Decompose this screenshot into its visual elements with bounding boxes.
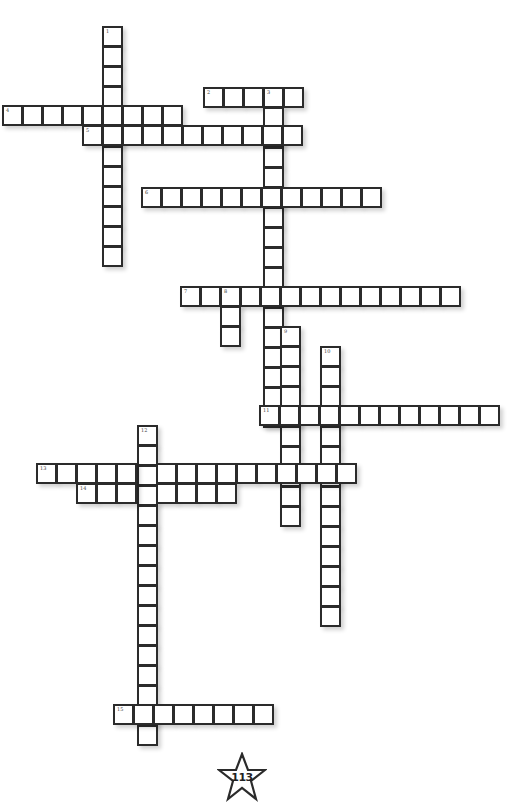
- crossword-cell[interactable]: 7: [180, 286, 201, 307]
- crossword-cell[interactable]: [220, 306, 241, 327]
- crossword-cell[interactable]: [176, 483, 197, 504]
- crossword-cell[interactable]: [182, 125, 203, 146]
- crossword-cell[interactable]: [400, 286, 421, 307]
- crossword-cell[interactable]: [137, 565, 158, 586]
- crossword-cell[interactable]: [340, 286, 361, 307]
- crossword-cell[interactable]: [279, 405, 300, 426]
- crossword-cell[interactable]: [320, 506, 341, 527]
- crossword-cell[interactable]: [320, 366, 341, 387]
- crossword-cell[interactable]: [280, 386, 301, 407]
- crossword-cell[interactable]: [223, 87, 244, 108]
- crossword-cell[interactable]: [263, 247, 284, 268]
- crossword-cell[interactable]: [161, 187, 182, 208]
- crossword-cell[interactable]: [316, 463, 337, 484]
- crossword-cell[interactable]: [280, 426, 301, 447]
- crossword-cell[interactable]: [221, 187, 242, 208]
- crossword-cell[interactable]: [263, 147, 284, 168]
- crossword-cell[interactable]: [320, 426, 341, 447]
- crossword-cell[interactable]: [399, 405, 420, 426]
- crossword-cell[interactable]: [137, 725, 158, 746]
- crossword-cell[interactable]: [263, 227, 284, 248]
- crossword-cell[interactable]: [137, 465, 158, 486]
- crossword-cell[interactable]: [336, 463, 357, 484]
- crossword-cell[interactable]: [439, 405, 460, 426]
- crossword-cell[interactable]: [220, 326, 241, 347]
- crossword-cell[interactable]: [137, 645, 158, 666]
- crossword-cell[interactable]: 5: [82, 125, 103, 146]
- crossword-cell[interactable]: [102, 105, 123, 126]
- crossword-cell[interactable]: [116, 463, 137, 484]
- crossword-cell[interactable]: [243, 87, 264, 108]
- crossword-cell[interactable]: [137, 625, 158, 646]
- crossword-cell[interactable]: 13: [36, 463, 57, 484]
- crossword-cell[interactable]: [339, 405, 360, 426]
- crossword-cell[interactable]: [142, 105, 163, 126]
- crossword-cell[interactable]: [193, 704, 214, 725]
- crossword-cell[interactable]: [102, 246, 123, 267]
- crossword-cell[interactable]: [300, 286, 321, 307]
- crossword-cell[interactable]: [137, 485, 158, 506]
- crossword-cell[interactable]: [280, 346, 301, 367]
- crossword-cell[interactable]: [440, 286, 461, 307]
- crossword-cell[interactable]: [419, 405, 440, 426]
- crossword-cell[interactable]: 6: [141, 187, 162, 208]
- crossword-cell[interactable]: [156, 483, 177, 504]
- crossword-cell[interactable]: [102, 86, 123, 107]
- crossword-cell[interactable]: 2: [203, 87, 224, 108]
- crossword-cell[interactable]: [241, 187, 262, 208]
- crossword-cell[interactable]: [216, 463, 237, 484]
- crossword-cell[interactable]: [96, 483, 117, 504]
- crossword-cell[interactable]: [320, 566, 341, 587]
- crossword-cell[interactable]: [242, 125, 263, 146]
- crossword-cell[interactable]: [263, 167, 284, 188]
- crossword-cell[interactable]: [137, 585, 158, 606]
- crossword-cell[interactable]: [280, 366, 301, 387]
- crossword-cell[interactable]: [137, 665, 158, 686]
- crossword-cell[interactable]: [261, 187, 282, 208]
- crossword-cell[interactable]: 3: [263, 87, 284, 108]
- crossword-cell[interactable]: [276, 463, 297, 484]
- crossword-cell[interactable]: [102, 66, 123, 87]
- crossword-cell[interactable]: [102, 226, 123, 247]
- crossword-cell[interactable]: [102, 186, 123, 207]
- crossword-cell[interactable]: [102, 146, 123, 167]
- crossword-cell[interactable]: [320, 486, 341, 507]
- crossword-cell[interactable]: 14: [76, 483, 97, 504]
- crossword-cell[interactable]: [283, 87, 304, 108]
- crossword-cell[interactable]: [263, 267, 284, 288]
- crossword-cell[interactable]: [56, 463, 77, 484]
- crossword-cell[interactable]: 12: [137, 425, 158, 446]
- crossword-cell[interactable]: [263, 307, 284, 328]
- crossword-cell[interactable]: [122, 125, 143, 146]
- crossword-cell[interactable]: [181, 187, 202, 208]
- crossword-cell[interactable]: [153, 704, 174, 725]
- crossword-cell[interactable]: [196, 483, 217, 504]
- crossword-cell[interactable]: [262, 125, 283, 146]
- crossword-cell[interactable]: [82, 105, 103, 126]
- crossword-cell[interactable]: [479, 405, 500, 426]
- crossword-cell[interactable]: [42, 105, 63, 126]
- crossword-cell[interactable]: 9: [280, 326, 301, 347]
- crossword-cell[interactable]: [319, 405, 340, 426]
- crossword-cell[interactable]: [379, 405, 400, 426]
- crossword-cell[interactable]: [216, 483, 237, 504]
- crossword-cell[interactable]: [280, 286, 301, 307]
- crossword-cell[interactable]: [162, 105, 183, 126]
- crossword-cell[interactable]: [341, 187, 362, 208]
- crossword-cell[interactable]: [102, 46, 123, 67]
- crossword-cell[interactable]: [200, 286, 221, 307]
- crossword-cell[interactable]: [320, 286, 341, 307]
- crossword-cell[interactable]: 15: [113, 704, 134, 725]
- crossword-cell[interactable]: [320, 606, 341, 627]
- crossword-cell[interactable]: [156, 463, 177, 484]
- crossword-cell[interactable]: [301, 187, 322, 208]
- crossword-cell[interactable]: [459, 405, 480, 426]
- crossword-cell[interactable]: [137, 505, 158, 526]
- crossword-cell[interactable]: [137, 525, 158, 546]
- crossword-cell[interactable]: 4: [2, 105, 23, 126]
- crossword-cell[interactable]: [122, 105, 143, 126]
- crossword-cell[interactable]: [76, 463, 97, 484]
- crossword-cell[interactable]: [280, 506, 301, 527]
- crossword-cell[interactable]: 1: [102, 26, 123, 47]
- crossword-cell[interactable]: [320, 526, 341, 547]
